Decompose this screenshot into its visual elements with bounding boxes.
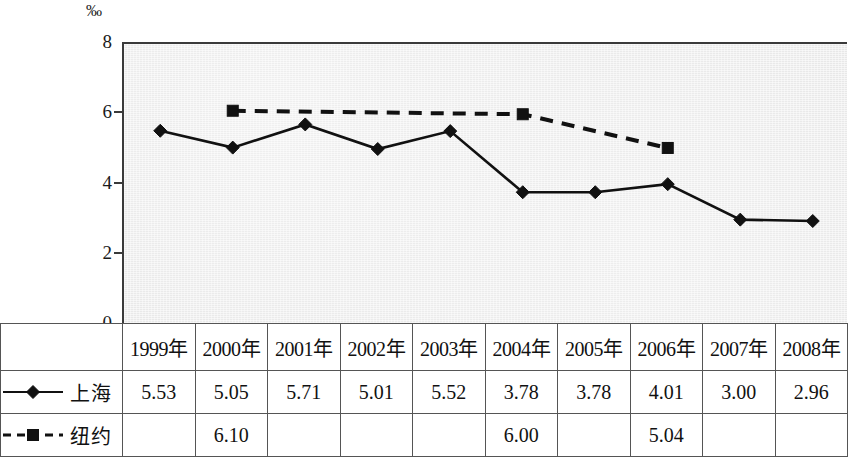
data-point-marker xyxy=(806,215,819,228)
table-cell-value: 5.01 xyxy=(340,371,413,414)
table-cell-empty xyxy=(268,414,341,457)
cell-text: 6.10 xyxy=(214,424,249,446)
column-header-year: 2005年 xyxy=(558,324,631,371)
data-point-marker xyxy=(227,105,238,116)
cell-text: 5.71 xyxy=(286,381,321,403)
table-cell-value: 3.00 xyxy=(703,371,776,414)
table-cell-value: 3.78 xyxy=(485,371,558,414)
column-header-year: 2001年 xyxy=(268,324,341,371)
table-cell-empty xyxy=(340,414,413,457)
cell-text: 3.00 xyxy=(721,381,756,403)
data-point-marker xyxy=(226,141,239,154)
legend-marker xyxy=(28,430,39,441)
data-point-marker xyxy=(589,186,602,199)
data-point-marker xyxy=(154,124,167,137)
column-header-year: 2006年 xyxy=(630,324,703,371)
y-axis-tick-label: 8 xyxy=(86,32,112,51)
table-cell-value: 6.10 xyxy=(195,414,268,457)
table-cell-empty xyxy=(413,414,486,457)
y-axis-tick-label: 2 xyxy=(86,243,112,262)
cell-text: 4.01 xyxy=(649,381,684,403)
table-cell-value: 4.01 xyxy=(630,371,703,414)
cell-text: 6.00 xyxy=(504,424,539,446)
legend-entry: 上海 xyxy=(1,371,122,413)
year-label: 2000年 xyxy=(203,338,261,360)
table-cell-value: 3.78 xyxy=(558,371,631,414)
data-table: 1999年2000年2001年2002年2003年2004年2005年2006年… xyxy=(0,323,848,457)
cell-text: 2.96 xyxy=(794,381,829,403)
cell-text: 5.01 xyxy=(359,381,394,403)
data-point-marker xyxy=(371,143,384,156)
cell-text: 3.78 xyxy=(504,381,539,403)
table-header-row: 1999年2000年2001年2002年2003年2004年2005年2006年… xyxy=(1,324,848,371)
series-name-label: 上海 xyxy=(70,378,112,407)
y-axis-tick-label: 4 xyxy=(86,173,112,192)
year-label: 2005年 xyxy=(565,338,623,360)
series-name-label: 纽约 xyxy=(70,421,112,450)
column-header-year: 2004年 xyxy=(485,324,558,371)
table-cell-value: 2.96 xyxy=(775,371,848,414)
table-header-legend-cell xyxy=(1,324,123,371)
year-label: 1999年 xyxy=(130,338,188,360)
column-header-year: 2003年 xyxy=(413,324,486,371)
series-shanghai xyxy=(154,118,820,228)
table-cell-value: 5.52 xyxy=(413,371,486,414)
legend-marker xyxy=(27,386,40,399)
table-cell-value: 5.05 xyxy=(195,371,268,414)
y-axis-tick-label: 6 xyxy=(86,102,112,121)
data-point-marker xyxy=(734,213,747,226)
column-header-year: 2007年 xyxy=(703,324,776,371)
year-label: 2001年 xyxy=(275,338,333,360)
table-row: 上海5.535.055.715.015.523.783.784.013.002.… xyxy=(1,371,848,414)
table-cell-empty xyxy=(703,414,776,457)
plot-series-svg xyxy=(124,44,847,323)
series-line xyxy=(160,124,813,221)
legend-cell: 纽约 xyxy=(1,414,123,457)
legend-entry: 纽约 xyxy=(1,414,122,456)
data-point-marker xyxy=(517,109,528,120)
cell-text: 5.05 xyxy=(214,381,249,403)
data-point-marker xyxy=(662,142,673,153)
data-point-marker xyxy=(661,178,674,191)
table-row: 纽约6.106.005.04 xyxy=(1,414,848,457)
year-label: 2003年 xyxy=(420,338,478,360)
column-header-year: 2008年 xyxy=(775,324,848,371)
cell-text: 5.04 xyxy=(649,424,684,446)
column-header-year: 2002年 xyxy=(340,324,413,371)
y-axis-unit-label: ‰ xyxy=(86,2,102,20)
year-label: 2004年 xyxy=(493,338,551,360)
line-chart: ‰ 02468 xyxy=(0,0,847,325)
column-header-year: 1999年 xyxy=(123,324,196,371)
table-cell-empty xyxy=(775,414,848,457)
table-cell-value: 5.53 xyxy=(123,371,196,414)
table-cell-value: 6.00 xyxy=(485,414,558,457)
plot-area xyxy=(122,42,847,323)
year-label: 2008年 xyxy=(783,338,841,360)
table-cell-empty xyxy=(558,414,631,457)
cell-text: 5.52 xyxy=(431,381,466,403)
table-cell-empty xyxy=(123,414,196,457)
year-label: 2002年 xyxy=(348,338,406,360)
cell-text: 5.53 xyxy=(141,381,176,403)
data-point-marker xyxy=(299,118,312,131)
legend-cell: 上海 xyxy=(1,371,123,414)
cell-text: 3.78 xyxy=(576,381,611,403)
table-cell-value: 5.71 xyxy=(268,371,341,414)
legend-dashed-square-icon xyxy=(2,426,64,444)
table-cell-value: 5.04 xyxy=(630,414,703,457)
column-header-year: 2000年 xyxy=(195,324,268,371)
legend-solid-diamond-icon xyxy=(2,383,64,401)
year-label: 2007年 xyxy=(710,338,768,360)
year-label: 2006年 xyxy=(638,338,696,360)
